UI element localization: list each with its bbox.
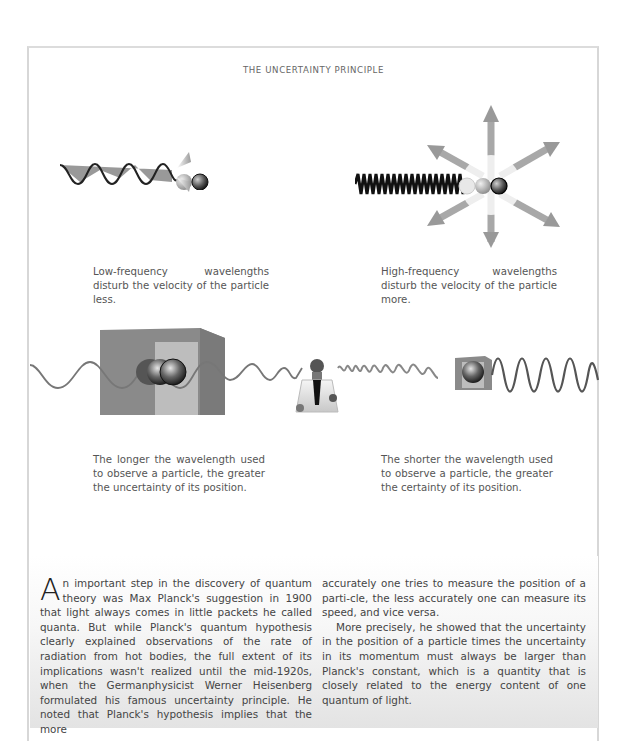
page-title: THE UNCERTAINTY PRINCIPLE: [0, 65, 627, 75]
low-frequency-caption: Low-frequency wavelengths disturb the ve…: [93, 265, 269, 307]
body-column-left: An important step in the discovery of qu…: [40, 576, 312, 737]
body-paragraph-2: accurately one tries to measure the posi…: [322, 576, 586, 620]
body-paragraph-1: An important step in the discovery of qu…: [40, 576, 312, 737]
high-frequency-caption: High-frequency wavelengths disturb the v…: [381, 265, 557, 307]
scatter-arrows-small-icon: [175, 150, 195, 195]
drop-cap: A: [40, 577, 61, 603]
high-frequency-illustration: [355, 100, 615, 250]
wavelength-position-illustration: [30, 320, 600, 430]
observer-figure: [296, 359, 338, 412]
body-text-panel: An important step in the discovery of qu…: [30, 556, 598, 728]
body-column-right: accurately one tries to measure the posi…: [322, 576, 586, 707]
short-wavelength-caption: The shorter the wavelength used to obser…: [381, 453, 553, 495]
body-paragraph-3: More precisely, he showed that the uncer…: [322, 620, 586, 708]
long-wavelength-caption: The longer the wavelength used to observ…: [93, 453, 265, 495]
